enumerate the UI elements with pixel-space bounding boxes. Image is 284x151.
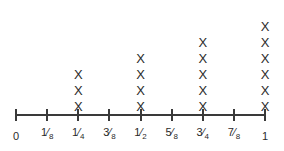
x-mark: X: [198, 35, 207, 51]
x-mark: X: [261, 35, 270, 51]
axis-tick: [233, 109, 235, 121]
x-mark: X: [198, 67, 207, 83]
axis-tick-label: 1⁄8: [41, 126, 53, 143]
x-mark-stack: XXXXXX: [261, 19, 270, 115]
x-mark-stack: XXX: [74, 67, 83, 115]
dot-plot-chart: XXXXXXXXXXXXXXXXXX 01⁄81⁄43⁄81⁄25⁄83⁄47⁄…: [0, 0, 284, 151]
axis-tick: [15, 109, 17, 121]
axis-tick-label: 0: [13, 130, 19, 143]
x-mark: X: [261, 51, 270, 67]
axis-tick-label: 1⁄2: [134, 126, 146, 143]
x-mark: X: [74, 67, 83, 83]
x-mark: X: [261, 83, 270, 99]
x-mark: X: [74, 83, 83, 99]
axis-tick-label: 3⁄8: [103, 126, 115, 143]
x-mark: X: [136, 51, 145, 67]
axis-tick-label: 1⁄4: [72, 126, 84, 143]
axis-tick-label: 5⁄8: [165, 126, 177, 143]
axis-tick: [202, 109, 204, 121]
axis-tick: [108, 109, 110, 121]
axis-tick: [140, 109, 142, 121]
x-mark: X: [261, 19, 270, 35]
axis-tick-label: 3⁄4: [197, 126, 209, 143]
axis-tick-label: 7⁄8: [228, 126, 240, 143]
axis-tick: [171, 109, 173, 121]
x-mark-stack: XXXX: [136, 51, 145, 115]
axis-tick: [264, 109, 266, 121]
x-mark: X: [136, 83, 145, 99]
axis-tick-label: 1: [262, 130, 268, 143]
x-mark: X: [136, 67, 145, 83]
x-mark-stack: XXXXX: [198, 35, 207, 115]
axis-tick: [77, 109, 79, 121]
axis-tick: [46, 109, 48, 121]
x-mark: X: [198, 83, 207, 99]
x-mark: X: [261, 67, 270, 83]
x-mark: X: [198, 51, 207, 67]
